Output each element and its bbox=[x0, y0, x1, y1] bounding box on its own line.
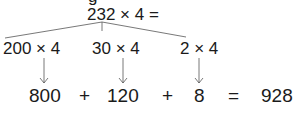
branch-line-right bbox=[102, 22, 186, 37]
partial-label-3: 2 × 4 bbox=[180, 40, 218, 57]
branch-line-left bbox=[5, 22, 102, 38]
partial-result-3: 8 bbox=[194, 86, 205, 105]
partial-result-2: 120 bbox=[107, 86, 139, 105]
partial-result-1: 800 bbox=[29, 86, 61, 105]
equals-operator: = bbox=[228, 86, 239, 105]
partial-label-2: 30 × 4 bbox=[92, 40, 140, 57]
total-result: 928 bbox=[261, 86, 293, 105]
plus-operator-1: + bbox=[79, 86, 90, 105]
partial-label-1: 200 × 4 bbox=[3, 40, 60, 57]
plus-operator-2: + bbox=[162, 86, 173, 105]
